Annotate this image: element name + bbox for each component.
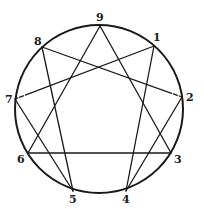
point-label-2: 2 (186, 91, 194, 104)
point-label-9: 9 (96, 11, 104, 24)
line-2-8 (42, 47, 182, 97)
line-1-4 (126, 46, 154, 191)
point-label-4: 4 (122, 193, 130, 206)
point-label-8: 8 (34, 35, 42, 48)
point-label-6: 6 (17, 153, 25, 166)
line-4-2 (126, 97, 182, 191)
enneagram-circle (15, 25, 183, 193)
connecting-lines (15, 26, 182, 191)
point-label-3: 3 (174, 153, 182, 166)
point-label-5: 5 (69, 193, 77, 206)
point-labels: 912345678 (5, 11, 194, 206)
enneagram-diagram: 912345678 (0, 0, 204, 209)
point-label-7: 7 (5, 93, 13, 106)
point-label-1: 1 (153, 31, 161, 44)
